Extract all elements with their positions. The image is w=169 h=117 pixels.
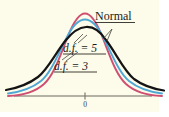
distribution-plot-canvas: Normal d.f. = 5 d.f. = 3 0 — [0, 0, 169, 117]
t-distribution-figure: Normal d.f. = 5 d.f. = 3 0 — [0, 0, 169, 117]
x-axis-zero-label: 0 — [83, 100, 87, 109]
label-normal: Normal — [95, 9, 132, 23]
label-df-5: d.f. = 5 — [63, 42, 97, 55]
label-df-3: d.f. = 3 — [54, 60, 88, 73]
